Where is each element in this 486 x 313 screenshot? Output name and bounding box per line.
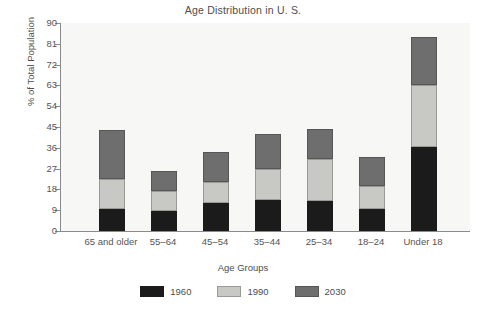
y-axis-tick-label: 90 (46, 18, 57, 28)
bar-stack[interactable] (411, 37, 437, 231)
x-axis-tick-label: 65 and older (85, 236, 138, 247)
y-axis-tick-label: 72 (46, 60, 57, 70)
legend-label: 2030 (325, 286, 346, 297)
x-axis-title: Age Groups (0, 262, 486, 273)
bar-segment-1960[interactable] (203, 203, 229, 231)
y-axis-tick-label: 0 (52, 226, 57, 236)
y-axis-tick-label: 9 (52, 205, 57, 215)
bar-segment-1990[interactable] (411, 85, 437, 146)
bar-segment-2030[interactable] (203, 152, 229, 182)
y-axis-tick-label: 81 (46, 39, 57, 49)
y-axis-tick-label: 27 (46, 164, 57, 174)
bar-segment-1990[interactable] (307, 159, 333, 201)
bar-segment-1960[interactable] (359, 209, 385, 231)
x-axis-tick-label: Under 18 (403, 236, 442, 247)
bar-stack[interactable] (359, 157, 385, 231)
legend-item-1990[interactable]: 1990 (217, 286, 268, 297)
legend-swatch-1990 (217, 286, 241, 297)
x-axis-tick-label: 35–44 (254, 236, 280, 247)
legend-item-2030[interactable]: 2030 (295, 286, 346, 297)
x-axis-tick-label: 45–54 (202, 236, 228, 247)
bar-segment-1990[interactable] (99, 179, 125, 209)
bar-segment-2030[interactable] (307, 129, 333, 159)
bar-segment-1990[interactable] (359, 186, 385, 209)
y-axis-tick-label: 18 (46, 185, 57, 195)
bar-segment-1960[interactable] (411, 147, 437, 231)
y-axis-tick-label: 45 (46, 122, 57, 132)
bar-stack[interactable] (99, 130, 125, 231)
bar-stack[interactable] (203, 152, 229, 231)
bar-stack[interactable] (307, 129, 333, 231)
bar-segment-1960[interactable] (99, 209, 125, 231)
legend-label: 1990 (247, 286, 268, 297)
chart-title: Age Distribution in U. S. (0, 4, 486, 16)
bar-segment-1990[interactable] (203, 182, 229, 203)
bar-stack[interactable] (255, 134, 281, 231)
x-axis-tick-label: 18–24 (358, 236, 384, 247)
legend-swatch-1960 (140, 286, 164, 297)
chart-figure: Age Distribution in U. S. % of Total Pop… (0, 0, 486, 313)
bar-segment-2030[interactable] (151, 171, 177, 191)
bar-segment-1960[interactable] (151, 211, 177, 231)
legend-label: 1960 (170, 286, 191, 297)
plot-area: 09182736455463728190 (60, 23, 470, 232)
bar-segment-2030[interactable] (359, 157, 385, 186)
chart-legend: 196019902030 (0, 286, 486, 297)
y-axis-tick-label: 63 (46, 81, 57, 91)
x-axis-tick-label: 25–34 (306, 236, 332, 247)
bar-segment-1960[interactable] (307, 201, 333, 231)
bar-segment-2030[interactable] (99, 130, 125, 179)
x-axis-tick-label: 55–64 (150, 236, 176, 247)
legend-swatch-2030 (295, 286, 319, 297)
bar-segment-1990[interactable] (255, 169, 281, 200)
bar-segment-2030[interactable] (411, 37, 437, 86)
y-axis-title: % of Total Population (25, 0, 36, 142)
bar-segment-1960[interactable] (255, 200, 281, 231)
legend-item-1960[interactable]: 1960 (140, 286, 191, 297)
bar-segment-1990[interactable] (151, 191, 177, 212)
bar-segment-2030[interactable] (255, 134, 281, 169)
y-axis-tick-label: 36 (46, 143, 57, 153)
y-axis-tick-label: 54 (46, 101, 57, 111)
bar-stack[interactable] (151, 171, 177, 231)
